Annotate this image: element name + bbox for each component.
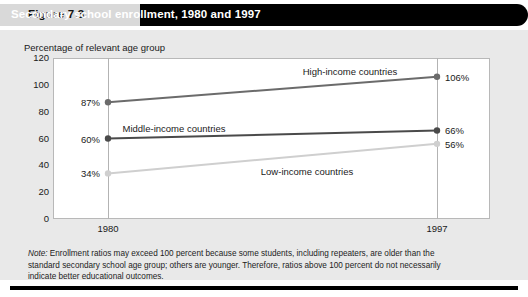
data-point-label: 60% bbox=[81, 133, 100, 144]
data-point-label: 34% bbox=[81, 168, 100, 179]
series-line bbox=[108, 77, 437, 102]
data-point-marker bbox=[434, 141, 440, 147]
data-point-marker bbox=[434, 127, 440, 133]
figure-note-prefix: Note: bbox=[28, 249, 48, 258]
figure-note-text: Enrollment ratios may exceed 100 percent… bbox=[28, 249, 441, 281]
data-point-marker bbox=[105, 135, 111, 141]
series-label-3: Low-income countries bbox=[261, 166, 353, 177]
series-label-2: Middle-income countries bbox=[123, 123, 226, 134]
figure-bottom-rule bbox=[10, 286, 518, 290]
series-label-1: High-income countries bbox=[303, 66, 398, 77]
data-point-label: 87% bbox=[81, 97, 100, 108]
data-point-label: 66% bbox=[445, 125, 464, 136]
data-point-marker bbox=[105, 170, 111, 176]
figure-container: Figure 7.3 Secondary school enrollment, … bbox=[0, 0, 528, 297]
data-point-label: 106% bbox=[445, 71, 469, 82]
data-point-marker bbox=[434, 74, 440, 80]
figure-note: Note: Enrollment ratios may exceed 100 p… bbox=[28, 248, 448, 283]
data-point-label: 56% bbox=[445, 138, 464, 149]
data-point-marker bbox=[105, 99, 111, 105]
